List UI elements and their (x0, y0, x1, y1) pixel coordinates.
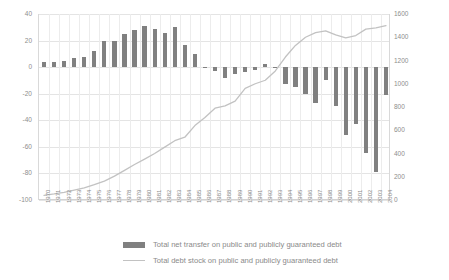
y2-axis-tick-label: 1200 (394, 58, 408, 65)
legend-item-debt-stock: Total debt stock on public and publicly … (0, 256, 449, 265)
y2-axis-tick-label: 600 (394, 127, 405, 134)
plot-area (38, 14, 390, 200)
x-axis-tick-label: 2001 (357, 190, 363, 203)
legend-item-label: Total debt stock on public and publicly … (153, 256, 338, 265)
x-axis-tick-label: 1983 (176, 190, 182, 203)
y2-axis-tick-label: 800 (394, 104, 405, 111)
x-axis-tick-label: 1984 (186, 190, 192, 203)
x-axis-tick-label: 2000 (347, 190, 353, 203)
x-axis-tick-label: 1994 (287, 190, 293, 203)
x-axis-tick-label: 1977 (116, 190, 122, 203)
x-axis-tick-label: 1974 (86, 190, 92, 203)
y-axis-tick-label: 20 (2, 38, 32, 45)
x-axis-tick-label: 1980 (146, 190, 152, 203)
x-axis-tick-label: 1989 (237, 190, 243, 203)
y-axis-tick-label: -40 (2, 117, 32, 124)
x-axis-tick-label: 1987 (216, 190, 222, 203)
x-axis-tick-label: 1972 (66, 190, 72, 203)
x-axis-tick-label: 1979 (136, 190, 142, 203)
x-axis-tick-label: 1997 (317, 190, 323, 203)
x-axis-tick-label: 2004 (387, 190, 393, 203)
y-axis-tick-label: -100 (2, 197, 32, 204)
legend-item-label: Total net transfer on public and publicl… (153, 240, 342, 249)
y2-axis-tick-label: 0 (394, 197, 398, 204)
x-axis-tick-label: 1970 (45, 190, 51, 203)
y-axis-tick-label: 0 (2, 64, 32, 71)
x-axis-tick-label: 1993 (277, 190, 283, 203)
y2-axis-tick-label: 1000 (394, 81, 408, 88)
y-axis-tick-label: -80 (2, 170, 32, 177)
y2-axis-tick-label: 1600 (394, 11, 408, 18)
x-axis-tick-label: 1973 (76, 190, 82, 203)
y-axis-tick-label: -20 (2, 91, 32, 98)
legend-bar-swatch-icon (123, 242, 145, 248)
chart-container: Total net transfer on public and publicl… (0, 0, 449, 280)
x-axis-tick-label: 1991 (257, 190, 263, 203)
chart-legend: Total net transfer on public and publicl… (0, 240, 449, 272)
x-axis-tick-label: 1992 (267, 190, 273, 203)
x-axis-tick-label: 1978 (126, 190, 132, 203)
x-axis-tick-label: 1990 (247, 190, 253, 203)
x-axis-tick-label: 1981 (156, 190, 162, 203)
y2-axis-tick-label: 400 (394, 151, 405, 158)
x-axis-tick-label: 1995 (297, 190, 303, 203)
y2-axis-tick-label: 1400 (394, 34, 408, 41)
x-axis-tick-label: 1971 (55, 190, 61, 203)
legend-line-swatch-icon (123, 260, 145, 261)
debt-stock-line (44, 26, 386, 196)
y-axis-tick-label: -60 (2, 144, 32, 151)
y2-axis-tick-label: 200 (394, 174, 405, 181)
legend-item-net-transfer: Total net transfer on public and publicl… (0, 240, 449, 249)
x-axis-tick-label: 1998 (327, 190, 333, 203)
x-axis-tick-label: 1988 (226, 190, 232, 203)
x-axis-tick-label: 1976 (106, 190, 112, 203)
x-axis-tick-label: 1975 (96, 190, 102, 203)
x-axis-tick-label: 2002 (367, 190, 373, 203)
line-series-layer (39, 14, 391, 200)
x-axis-tick-label: 2003 (377, 190, 383, 203)
y-axis-tick-label: 40 (2, 11, 32, 18)
x-axis-tick-label: 1986 (206, 190, 212, 203)
x-axis-tick-label: 1999 (337, 190, 343, 203)
x-axis-tick-label: 1996 (307, 190, 313, 203)
x-axis-tick-label: 1982 (166, 190, 172, 203)
x-axis-tick-label: 1985 (196, 190, 202, 203)
